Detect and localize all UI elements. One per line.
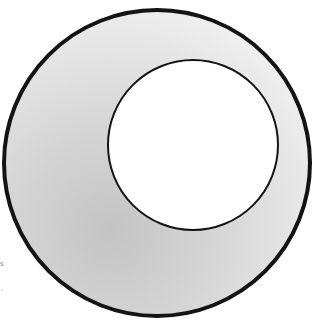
inner-hole	[108, 60, 278, 230]
edge-mark-letter: s	[0, 261, 4, 268]
ring-illustration	[0, 0, 313, 320]
edge-mark-dash: -	[1, 287, 4, 294]
